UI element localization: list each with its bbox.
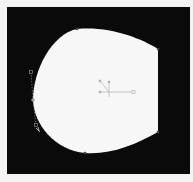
bezier-handle-top[interactable] [30, 71, 33, 74]
gizmo-scale-handle[interactable] [132, 91, 135, 94]
anchor-point-left[interactable] [32, 99, 35, 102]
bezier-handle-bottom[interactable] [35, 124, 38, 127]
anchor-point-bottom-right[interactable] [157, 131, 160, 134]
cursor-icon [36, 127, 40, 132]
vector-shape[interactable] [33, 29, 158, 154]
anchor-point-bottom[interactable] [84, 152, 87, 155]
anchor-point-top[interactable] [76, 28, 79, 31]
anchor-point-top-right[interactable] [157, 48, 160, 51]
vector-overlay [0, 0, 193, 182]
